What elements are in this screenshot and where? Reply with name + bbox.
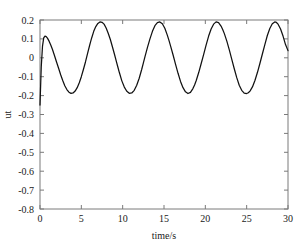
y-tick-label: -0.8 bbox=[18, 204, 34, 215]
y-axis-ticks bbox=[40, 20, 288, 209]
plot-frame bbox=[40, 20, 288, 209]
x-axis-tick-labels: 051015202530 bbox=[38, 213, 294, 224]
y-tick-label: -0.7 bbox=[18, 185, 34, 196]
y-tick-label: -0.6 bbox=[18, 166, 34, 177]
y-tick-label: -0.2 bbox=[18, 90, 34, 101]
x-tick-label: 20 bbox=[200, 213, 210, 224]
x-tick-label: 25 bbox=[242, 213, 252, 224]
line-chart: 051015202530 -0.8-0.7-0.6-0.5-0.4-0.3-0.… bbox=[0, 0, 305, 248]
y-tick-label: -0.4 bbox=[18, 128, 34, 139]
x-tick-label: 5 bbox=[79, 213, 84, 224]
x-axis-label: time/s bbox=[152, 230, 177, 241]
y-tick-label: -0.5 bbox=[18, 147, 34, 158]
y-tick-label: 0 bbox=[29, 52, 34, 63]
x-tick-label: 30 bbox=[283, 213, 293, 224]
y-tick-label: 0.1 bbox=[22, 33, 35, 44]
chart-figure: 051015202530 -0.8-0.7-0.6-0.5-0.4-0.3-0.… bbox=[0, 0, 305, 248]
x-tick-label: 10 bbox=[118, 213, 128, 224]
x-tick-label: 15 bbox=[159, 213, 169, 224]
x-axis-ticks bbox=[40, 20, 288, 209]
x-tick-label: 0 bbox=[38, 213, 43, 224]
y-tick-label: -0.3 bbox=[18, 109, 34, 120]
data-series-ut bbox=[40, 22, 288, 105]
y-axis-tick-labels: -0.8-0.7-0.6-0.5-0.4-0.3-0.2-0.100.10.2 bbox=[18, 15, 34, 215]
y-axis-label: ut bbox=[2, 110, 13, 118]
y-tick-label: 0.2 bbox=[22, 15, 35, 26]
y-tick-label: -0.1 bbox=[18, 71, 34, 82]
